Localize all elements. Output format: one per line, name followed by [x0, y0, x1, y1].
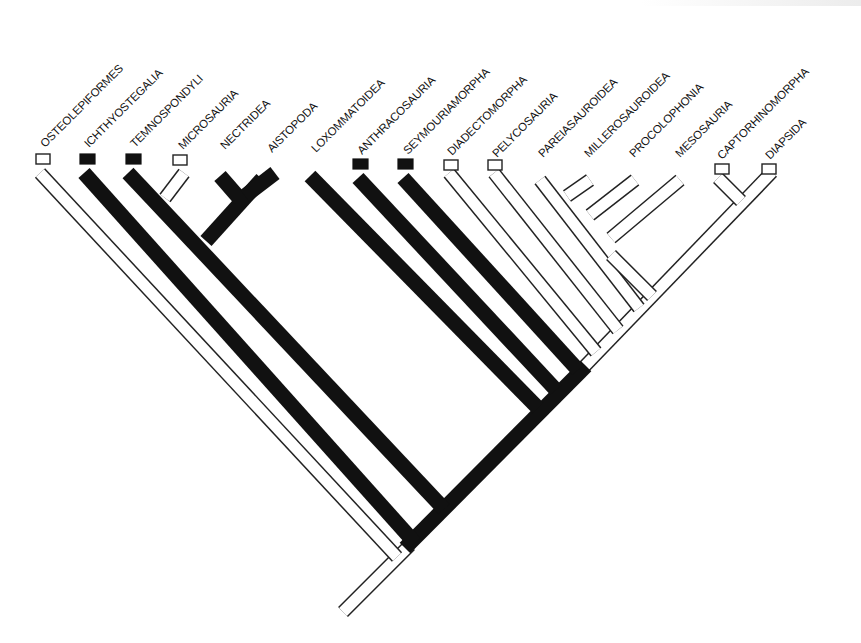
box-anthracosauria	[353, 159, 368, 169]
box-ichthyostegalia	[80, 154, 95, 164]
label-diadectomorpha: DIADECTOMORPHA	[445, 73, 529, 157]
tetrapod-trunk	[405, 366, 586, 548]
cladogram-figure: OSTEOLEPIFORMES ICHTHYOSTEGALIA TEMNOSPO…	[0, 0, 861, 643]
box-seymouriamorpha	[398, 159, 413, 169]
box-pelycosauria	[488, 160, 502, 170]
branch-aistopoda	[245, 173, 275, 196]
label-millerosauroidea: MILLEROSAUROIDEA	[582, 69, 672, 159]
terminal-boxes	[36, 154, 776, 174]
label-diapsida: DIAPSIDA	[763, 116, 809, 162]
box-osteolepiformes	[36, 154, 50, 164]
box-temnospondyli	[126, 154, 141, 164]
branch-nectridea	[220, 176, 240, 199]
box-captorhinomorpha	[715, 164, 729, 174]
label-seymouriamorpha: SEYMOURIAMORPHA	[401, 65, 492, 156]
label-captorhinomorpha: CAPTORHINOMORPHA	[715, 65, 811, 161]
box-diadectomorpha	[444, 160, 458, 170]
box-microsauria	[173, 155, 187, 165]
taxon-labels: OSTEOLEPIFORMES ICHTHYOSTEGALIA TEMNOSPO…	[38, 62, 811, 162]
label-pareiasauroidea: PAREIASAUROIDEA	[536, 76, 620, 160]
cladogram-svg: OSTEOLEPIFORMES ICHTHYOSTEGALIA TEMNOSPO…	[0, 0, 861, 643]
label-ichthyostegalia: ICHTHYOSTEGALIA	[82, 66, 165, 149]
label-osteolepiformes: OSTEOLEPIFORMES	[38, 62, 126, 150]
label-procolophonia: PROCOLOPHONIA	[627, 81, 706, 160]
branch-seymouriamorpha	[403, 178, 578, 370]
label-anthracosauria: ANTHRACOSAURIA	[355, 74, 438, 157]
box-diapsida	[762, 164, 776, 174]
